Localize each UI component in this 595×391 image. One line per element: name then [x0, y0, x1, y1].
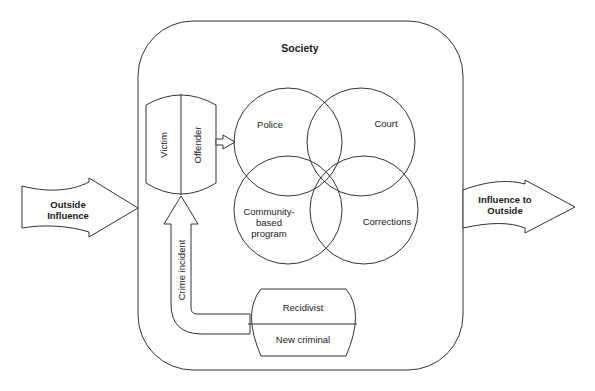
outside-influence-label-line1: Outside — [50, 199, 85, 210]
corrections-label: Corrections — [363, 216, 412, 227]
police-circle — [234, 88, 342, 196]
crime-incident-label: Crime incident — [176, 239, 187, 300]
court-circle — [307, 88, 415, 196]
victim-offender-box: Victim Offender — [146, 94, 216, 195]
victim-label: Victim — [158, 132, 169, 158]
influence-to-outside-arrow: Influence to Outside — [463, 180, 575, 233]
influence-to-outside-label-line2: Outside — [487, 205, 522, 216]
new-criminal-label: New criminal — [276, 334, 330, 345]
outside-influence-label-line2: Influence — [47, 210, 89, 221]
outcome-box: Recidivist New criminal — [248, 289, 357, 356]
court-label: Court — [374, 118, 398, 129]
influence-to-outside-label-line1: Influence to — [478, 194, 532, 205]
community-label-line2: based — [256, 217, 282, 228]
recidivist-label: Recidivist — [283, 302, 324, 313]
community-label-line1: Community- — [243, 206, 294, 217]
outside-influence-arrow: Outside Influence — [22, 178, 138, 237]
community-label-line3: program — [251, 228, 286, 239]
police-label: Police — [257, 119, 283, 130]
offender-label: Offender — [192, 127, 203, 164]
criminal-justice-system-diagram: Society Outside Influence Influence to O… — [0, 0, 595, 391]
agency-venn: Police Court Community- based program Co… — [234, 88, 418, 264]
crime-incident-arrow: Crime incident — [164, 196, 250, 334]
society-label: Society — [281, 42, 319, 54]
offender-to-police-arrow — [216, 135, 235, 149]
